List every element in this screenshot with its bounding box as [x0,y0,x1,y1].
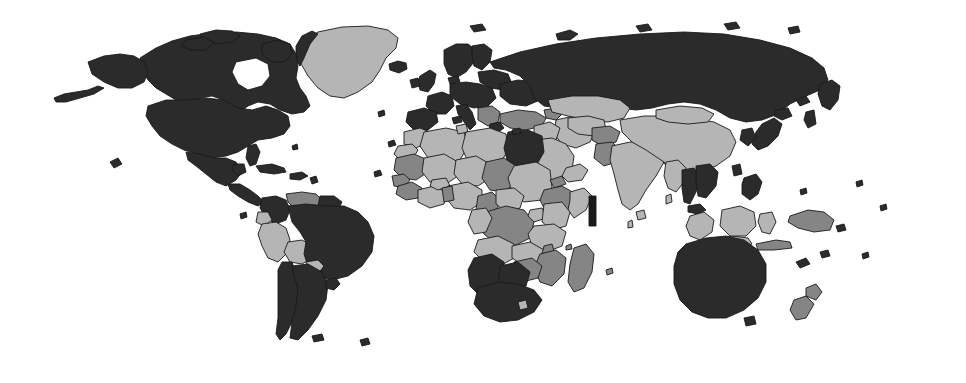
region-andaman [666,194,672,204]
region-south-georgia [360,338,370,346]
region-wrangel-island [788,26,800,34]
region-borneo [720,206,756,236]
region-lesser-antilles [310,176,318,184]
region-fiji-pacific-isles [820,250,830,258]
region-lesotho [518,300,528,310]
region-sri-lanka [636,210,646,220]
region-maldives [628,220,633,228]
region-tasmania [744,316,756,326]
region-falklands [312,334,324,342]
world-map-svg [0,0,966,383]
region-sicily-sardinia [452,116,462,124]
region-taiwan [732,164,742,176]
world-choropleth-figure [0,0,966,383]
region-benin-togo [442,186,454,202]
indian-ocean-marker [589,196,596,226]
region-ireland [410,78,420,88]
region-solomon-islands [836,224,846,232]
